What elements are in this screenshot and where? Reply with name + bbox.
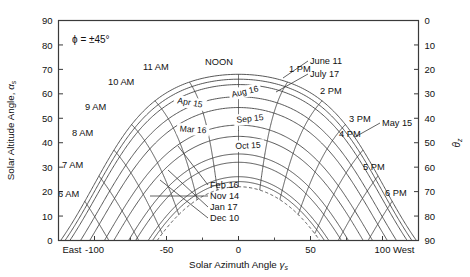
y-tick-label: 20 xyxy=(42,186,53,197)
theta-tick-label: 50 xyxy=(425,137,436,148)
theta-tick-label: 80 xyxy=(425,211,436,222)
date-label: July 17 xyxy=(310,69,339,79)
y-tick-label: 10 xyxy=(42,211,53,222)
hour-label: 4 PM xyxy=(339,129,361,139)
hour-label: 6 PM xyxy=(385,188,407,198)
y-tick-label: 70 xyxy=(42,64,53,75)
y-axis-title: Solar Altitude Angle, αs xyxy=(5,80,17,180)
hour-label: 11 AM xyxy=(143,62,169,72)
hour-label: 9 AM xyxy=(85,102,106,112)
y-tick-label: 40 xyxy=(42,137,53,148)
y-tick-label: 60 xyxy=(42,88,53,99)
theta-tick-label: 40 xyxy=(425,113,436,124)
hour-label: 3 PM xyxy=(349,114,371,124)
theta-tick-label: 0 xyxy=(425,15,430,26)
sun-path-chart: 01020304050607080900102030405060708090-1… xyxy=(0,0,470,277)
theta-tick-label: 20 xyxy=(425,64,436,75)
y-tick-label: 80 xyxy=(42,40,53,51)
date-label: Nov 14 xyxy=(210,191,239,201)
date-label: May 15 xyxy=(382,118,412,128)
y-tick-label: 50 xyxy=(42,113,53,124)
svg-text:Oct 15: Oct 15 xyxy=(235,140,261,151)
theta-tick-label: 10 xyxy=(425,40,436,51)
hour-label: 10 AM xyxy=(108,77,134,87)
x-tick-label: -100 xyxy=(85,244,104,255)
hour-label: 1 PM xyxy=(289,64,311,74)
east-label: East xyxy=(63,244,82,255)
theta-tick-label: 70 xyxy=(425,186,436,197)
svg-text:Mar 16: Mar 16 xyxy=(179,123,207,135)
date-label: Jan 17 xyxy=(210,202,238,212)
x-axis-title: Solar Azimuth Angle γs xyxy=(189,259,288,271)
theta-tick-label: 90 xyxy=(425,235,436,246)
hour-label: 2 PM xyxy=(320,86,342,96)
hour-label: 6 AM xyxy=(58,189,79,199)
y-tick-label: 30 xyxy=(42,162,53,173)
date-label: Dec 10 xyxy=(210,213,239,223)
latitude-annotation: ϕ = ±45° xyxy=(72,34,110,45)
hour-label: 5 PM xyxy=(363,162,385,172)
x-tick-label: 50 xyxy=(305,244,316,255)
theta-tick-label: 30 xyxy=(425,88,436,99)
date-curve-label: Mar 16 xyxy=(176,123,209,137)
date-label: June 11 xyxy=(310,56,342,66)
hour-label: 7 AM xyxy=(62,160,83,170)
y-tick-label: 90 xyxy=(42,15,53,26)
y-tick-label: 0 xyxy=(47,235,52,246)
west-label: West xyxy=(393,244,415,255)
chart-background xyxy=(0,0,470,277)
date-curve-label: Oct 15 xyxy=(232,139,265,152)
hour-label: 8 AM xyxy=(72,128,93,138)
x-tick-label: 0 xyxy=(236,244,241,255)
hour-label: NOON xyxy=(205,57,233,67)
x-tick-label: -50 xyxy=(160,244,174,255)
date-label: Feb 16 xyxy=(210,180,239,190)
x-tick-label: 100 xyxy=(375,244,391,255)
theta-tick-label: 60 xyxy=(425,162,436,173)
